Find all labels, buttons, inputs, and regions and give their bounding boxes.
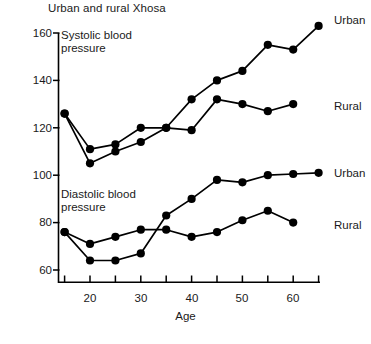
data-point (137, 226, 145, 234)
data-point (162, 211, 170, 219)
data-point (213, 76, 221, 84)
series-line (65, 26, 319, 163)
chart-figure: Urban and rural Xhosa Systolic bloodpres… (0, 0, 371, 344)
data-point (213, 176, 221, 184)
data-point (111, 233, 119, 241)
data-point (188, 233, 196, 241)
data-point (213, 228, 221, 236)
data-point (137, 124, 145, 132)
data-point (111, 147, 119, 155)
data-point (86, 145, 94, 153)
data-point (238, 216, 246, 224)
data-point (238, 100, 246, 108)
data-point (86, 256, 94, 264)
series-layer (61, 22, 323, 265)
x-tick-marks (65, 276, 319, 283)
plot-canvas (0, 0, 371, 344)
series-line (65, 211, 294, 244)
data-point (315, 22, 323, 30)
data-point (111, 140, 119, 148)
series-systolic-rural (61, 95, 298, 153)
series-line (65, 99, 294, 149)
data-point (289, 45, 297, 53)
data-point (188, 95, 196, 103)
series-systolic-urban (61, 22, 323, 168)
data-point (264, 107, 272, 115)
data-point (61, 109, 69, 117)
data-point (86, 240, 94, 248)
data-point (137, 138, 145, 146)
series-diastolic-urban (61, 169, 323, 265)
data-point (264, 171, 272, 179)
data-point (162, 124, 170, 132)
data-point (111, 256, 119, 264)
data-point (188, 195, 196, 203)
data-point (238, 178, 246, 186)
data-point (137, 249, 145, 257)
data-point (61, 228, 69, 236)
data-point (264, 41, 272, 49)
data-point (289, 170, 297, 178)
data-point (289, 100, 297, 108)
data-point (264, 207, 272, 215)
data-point (162, 226, 170, 234)
data-point (86, 159, 94, 167)
data-point (289, 219, 297, 227)
data-point (213, 95, 221, 103)
data-point (238, 67, 246, 75)
series-diastolic-rural (61, 207, 298, 248)
data-point (188, 126, 196, 134)
data-point (315, 169, 323, 177)
